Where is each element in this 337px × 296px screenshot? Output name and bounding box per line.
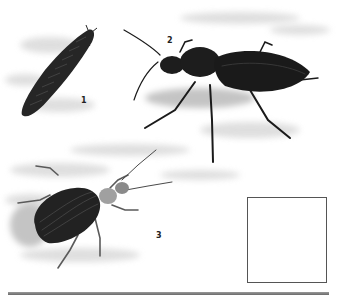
- bottom-divider: [8, 292, 329, 295]
- figure-label-1: 1: [81, 96, 87, 105]
- figure-label-3: 3: [156, 231, 162, 240]
- illustration-plate: 1 2 3: [0, 0, 337, 296]
- distribution-map: [247, 197, 327, 283]
- figure-label-2: 2: [167, 36, 173, 45]
